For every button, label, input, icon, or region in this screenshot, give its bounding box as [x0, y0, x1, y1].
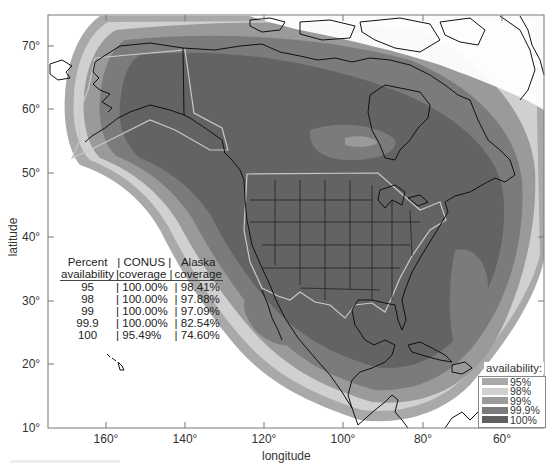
- x-axis-label: longitude: [262, 449, 311, 463]
- legend-swatch: [482, 407, 508, 414]
- coverage-map: [0, 0, 554, 469]
- legend-item-100: 100%: [482, 415, 545, 425]
- x-tick-120: 120°: [252, 432, 277, 446]
- x-tick-60: 60°: [493, 432, 511, 446]
- table-row: 100| 95.49%| 74.60%: [60, 329, 223, 341]
- y-tick-20: 20°: [22, 357, 40, 371]
- legend-title: availability:: [484, 362, 544, 374]
- y-tick-70: 70°: [22, 39, 40, 53]
- y-tick-10: 10°: [22, 421, 40, 435]
- x-tick-160: 160°: [94, 432, 119, 446]
- coastline-hawaii: [107, 354, 124, 370]
- table-row: 98| 100.00%| 97.88%: [60, 293, 223, 305]
- header-alaska-coverage: Alaskacoverage: [174, 256, 223, 281]
- table-row: 99| 100.00%| 97.09%: [60, 305, 223, 317]
- coverage-table: Percentavailability | CONUS ||coverage |…: [60, 256, 223, 341]
- header-conus-coverage: | CONUS ||coverage |: [115, 256, 174, 281]
- y-tick-50: 50°: [22, 166, 40, 180]
- x-tick-100: 100°: [331, 432, 356, 446]
- header-percent-availability: Percentavailability: [60, 256, 115, 281]
- figure-caption-faint: [10, 460, 120, 463]
- x-tick-80: 80°: [414, 432, 432, 446]
- legend-swatch: [482, 388, 508, 395]
- legend-swatch: [482, 378, 508, 385]
- legend: 95% 98% 99% 99.9% 100%: [478, 376, 546, 428]
- table-row: 99.9| 100.00%| 82.54%: [60, 317, 223, 329]
- table-header-row: Percentavailability | CONUS ||coverage |…: [60, 256, 223, 281]
- legend-swatch: [482, 397, 508, 404]
- table-row: 95| 100.00%| 98.41%: [60, 281, 223, 294]
- legend-swatch: [482, 416, 508, 423]
- y-tick-60: 60°: [22, 102, 40, 116]
- x-tick-140: 140°: [173, 432, 198, 446]
- y-tick-30: 30°: [22, 294, 40, 308]
- y-axis-label: latitude: [6, 218, 20, 257]
- y-tick-40: 40°: [22, 230, 40, 244]
